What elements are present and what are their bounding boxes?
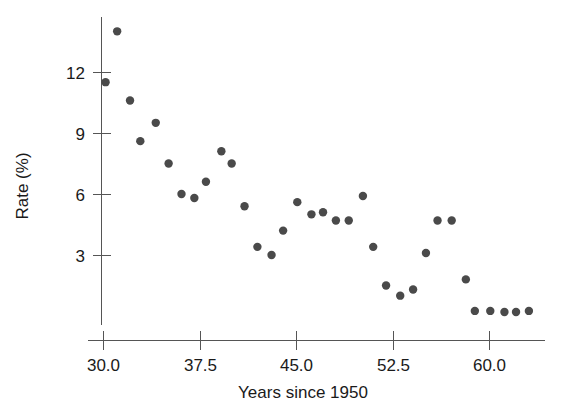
x-tick-label: 45.0 <box>280 356 313 375</box>
data-point <box>462 275 470 283</box>
data-point <box>113 27 121 35</box>
y-tick-label: 12 <box>66 64 85 83</box>
data-point <box>500 308 508 316</box>
data-point <box>396 291 404 299</box>
data-point <box>422 249 430 257</box>
x-tick-label: 52.5 <box>377 356 410 375</box>
data-point <box>126 96 134 104</box>
data-point <box>279 226 287 234</box>
data-point <box>307 210 315 218</box>
y-axis-title: Rate (%) <box>13 152 32 219</box>
x-tick-label: 37.5 <box>184 356 217 375</box>
y-tick-label: 6 <box>76 186 85 205</box>
data-point <box>293 198 301 206</box>
data-point <box>512 308 520 316</box>
data-point <box>136 137 144 145</box>
data-point <box>202 178 210 186</box>
plot-canvas: 36912 30.037.545.052.560.0 Years since 1… <box>0 0 569 417</box>
x-tick-label: 30.0 <box>87 356 120 375</box>
data-point <box>253 243 261 251</box>
data-point <box>267 251 275 259</box>
data-point <box>217 147 225 155</box>
data-point <box>190 194 198 202</box>
data-point <box>101 78 109 86</box>
data-point <box>525 307 533 315</box>
data-point <box>319 208 327 216</box>
data-point <box>409 285 417 293</box>
x-tick-label: 60.0 <box>473 356 506 375</box>
y-axis-ticks: 36912 <box>66 64 111 266</box>
y-tick-label: 9 <box>76 125 85 144</box>
y-tick-label: 3 <box>76 247 85 266</box>
data-point <box>471 307 479 315</box>
data-point <box>345 216 353 224</box>
data-point <box>369 243 377 251</box>
x-axis-ticks: 30.037.545.052.560.0 <box>87 331 506 375</box>
data-point <box>164 159 172 167</box>
data-point <box>240 202 248 210</box>
data-point <box>359 192 367 200</box>
data-point <box>152 119 160 127</box>
data-points-layer <box>101 27 533 316</box>
data-point <box>486 307 494 315</box>
data-point <box>433 216 441 224</box>
data-point <box>227 159 235 167</box>
data-point <box>332 216 340 224</box>
data-point <box>382 281 390 289</box>
x-axis-title: Years since 1950 <box>238 383 368 402</box>
data-point <box>177 190 185 198</box>
data-point <box>447 216 455 224</box>
